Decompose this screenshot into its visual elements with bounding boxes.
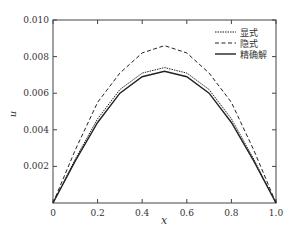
y-tick-label: 0.010 (23, 15, 49, 25)
x-tick-label: 0.4 (135, 208, 150, 218)
legend-label: 精确解 (240, 49, 267, 60)
series-line-dashed (53, 46, 276, 203)
legend-label: 隐式 (240, 38, 258, 49)
line-chart: 00.20.40.60.81.00.0020.0040.0060.0080.01… (0, 0, 293, 238)
x-tick-label: 0.2 (90, 208, 104, 218)
series-line-solid (53, 71, 276, 203)
x-tick-label: 1.0 (269, 208, 284, 218)
y-tick-label: 0.004 (23, 125, 49, 135)
x-tick-label: 0.6 (180, 208, 195, 218)
x-axis-label: x (161, 214, 168, 227)
x-tick-label: 0.8 (224, 208, 239, 218)
legend-label: 显式 (240, 27, 258, 38)
x-tick-label: 0 (50, 208, 56, 218)
y-tick-label: 0.006 (23, 88, 49, 98)
y-axis-label: u (7, 111, 18, 117)
y-tick-label: 0.002 (23, 161, 49, 171)
series-line-dotted (53, 68, 276, 203)
y-tick-label: 0.008 (23, 52, 49, 62)
